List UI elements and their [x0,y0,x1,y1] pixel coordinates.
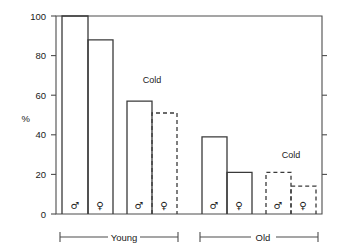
group-label-old: Old [256,232,271,243]
bar-young-female [88,40,113,214]
sex-symbol-old-cold-female: ♀ [299,200,306,211]
sex-symbol-young-female: ♀ [96,200,103,211]
grouped-bar-chart: 100 80 60 40 20 0 % Cold Cold ♂ ♀ ♂ ♀ ♂ … [0,0,340,251]
plot-frame [56,16,322,214]
sex-symbol-old-cold-male: ♂ [274,200,283,211]
cold-label-young: Cold [143,75,162,85]
ytick-label-40: 40 [35,129,46,140]
sex-symbol-old-male: ♂ [210,200,219,211]
sex-symbol-old-female: ♀ [235,200,242,211]
sex-symbol-young-cold-male: ♂ [135,200,144,211]
cold-label-old: Cold [282,150,301,160]
ytick-label-100: 100 [30,11,46,22]
bar-young-male [62,16,88,214]
ytick-label-20: 20 [35,169,46,180]
ytick-label-80: 80 [35,50,46,61]
sex-symbol-young-male: ♂ [71,200,80,211]
sex-symbol-young-cold-female: ♀ [160,200,167,211]
bar-young-cold-female [152,113,177,214]
bar-young-cold-male [127,101,152,214]
group-label-young: Young [111,232,138,243]
y-axis-ticks-left [51,16,56,214]
y-axis-tick-labels: 100 80 60 40 20 0 [30,11,46,220]
ytick-label-60: 60 [35,90,46,101]
axes-box [56,16,322,214]
ytick-label-0: 0 [41,209,46,220]
y-axis-title: % [22,113,31,124]
chart-figure: 100 80 60 40 20 0 % Cold Cold ♂ ♀ ♂ ♀ ♂ … [0,0,340,251]
y-axis-ticks-right [322,56,327,175]
